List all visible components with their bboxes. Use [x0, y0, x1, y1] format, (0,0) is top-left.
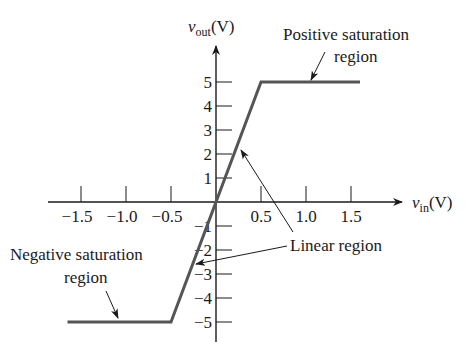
negative-saturation-label-line2: region: [64, 268, 108, 287]
y-tick-label: −5: [194, 313, 212, 332]
y-tick-label: 2: [204, 145, 213, 164]
x-tick-label: −1.0: [107, 207, 138, 226]
y-tick-label: 4: [204, 97, 213, 116]
x-axis-label: vin(V): [412, 193, 453, 215]
x-tick-label: 0.5: [250, 207, 271, 226]
y-tick-label: 5: [204, 73, 213, 92]
positive-saturation-label-line2: region: [334, 47, 378, 66]
y-tick-label: −4: [194, 289, 213, 308]
y-tick-label: 1: [204, 169, 213, 188]
negative-saturation-annotation: Negative saturation region: [10, 245, 143, 318]
negative-saturation-label-line1: Negative saturation: [10, 245, 143, 264]
x-tick-label: −0.5: [152, 207, 183, 226]
y-axis-label: vout(V): [188, 17, 235, 39]
x-tick-label: −1.5: [62, 207, 93, 226]
x-tick-label: 1.5: [340, 207, 361, 226]
y-tick-label: 3: [204, 121, 213, 140]
arrow-icon: [106, 291, 118, 318]
positive-saturation-annotation: Positive saturation region: [283, 25, 410, 80]
transfer-characteristic-chart: −1.5−1.0−0.50.51.01.5 54321−1−2−3−4−5 vo…: [0, 0, 469, 350]
y-tick-label: −3: [194, 265, 212, 284]
arrow-icon: [311, 52, 325, 80]
linear-region-label: Linear region: [290, 236, 383, 255]
positive-saturation-label-line1: Positive saturation: [283, 25, 410, 44]
x-tick-label: 1.0: [295, 207, 316, 226]
